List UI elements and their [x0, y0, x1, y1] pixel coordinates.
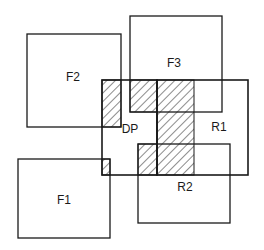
label-r2: R2	[177, 181, 192, 193]
hatched-overlap-f1-dp-corner	[102, 159, 110, 175]
hatched-overlap-f3-dp	[130, 80, 157, 112]
label-f2: F2	[66, 71, 80, 83]
hatched-overlap-r2-dp	[138, 144, 157, 175]
hatched-overlap-f2-dp	[102, 80, 121, 127]
label-f1: F1	[57, 194, 71, 206]
label-dp: DP	[122, 123, 139, 135]
hatched-overlap-dp-r1-column	[157, 80, 194, 175]
label-r1: R1	[211, 121, 226, 133]
label-f3: F3	[167, 57, 181, 69]
